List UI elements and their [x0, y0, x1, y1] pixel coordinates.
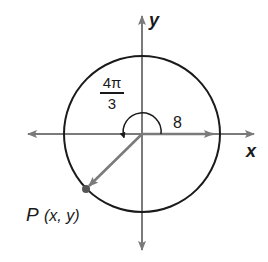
terminal-side-vector [89, 134, 142, 186]
x-axis-label: x [246, 142, 256, 160]
angle-label: 4π 3 [98, 74, 126, 112]
angle-numerator: 4π [98, 74, 126, 92]
radius-label: 8 [173, 115, 182, 131]
y-axis-label: y [149, 11, 159, 29]
angle-denominator: 3 [98, 94, 126, 112]
point-p [82, 185, 90, 193]
point-coords: (x, y) [44, 207, 80, 224]
point-name: P [26, 204, 39, 225]
point-label: P (x, y) [26, 205, 80, 224]
